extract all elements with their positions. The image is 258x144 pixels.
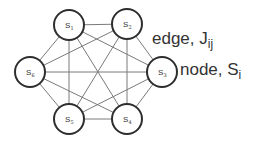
edge-annotation-text: edge, J	[152, 29, 208, 48]
node-s6: S6	[15, 57, 45, 87]
node-s2: S2	[112, 9, 142, 39]
node-annotation-subscript: i	[239, 68, 242, 82]
node-label-subscript: 6	[31, 72, 34, 78]
node-label-subscript: 1	[70, 25, 73, 31]
node-s1: S1	[54, 10, 84, 40]
node-label-subscript: 5	[70, 119, 73, 125]
node-label-subscript: 3	[163, 72, 166, 78]
edge-annotation-subscript: ij	[208, 37, 213, 51]
edge-annotation: edge, Jij	[152, 29, 213, 51]
edges-layer	[30, 24, 162, 119]
node-s5: S5	[54, 104, 84, 134]
node-annotation-text: node, S	[180, 60, 239, 79]
node-label-subscript: 2	[128, 24, 131, 30]
node-s3: S3	[147, 57, 177, 87]
node-label-subscript: 4	[128, 119, 131, 125]
node-annotation: node, Si	[180, 60, 241, 82]
node-s4: S4	[112, 104, 142, 134]
